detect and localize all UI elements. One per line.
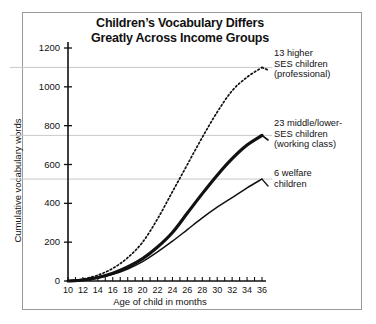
legend-leader-line [262,135,268,140]
data-series [68,67,262,281]
series-line [68,135,262,281]
series-line [68,179,262,281]
legend-leader-lines [262,67,268,186]
chart-figure: Children’s Vocabulary Differs Greatly Ac… [0,0,376,324]
legend-label-middle-lower-ses: 23 middle/lower- SES children (working c… [274,118,360,150]
series-line [68,67,262,281]
legend-label-higher-ses: 13 higher SES children (professional) [274,48,360,80]
axis-lines [64,42,266,281]
legend-leader-line [262,179,268,186]
gridlines [10,67,272,179]
legend-label-welfare: 6 welfare children [274,168,360,189]
